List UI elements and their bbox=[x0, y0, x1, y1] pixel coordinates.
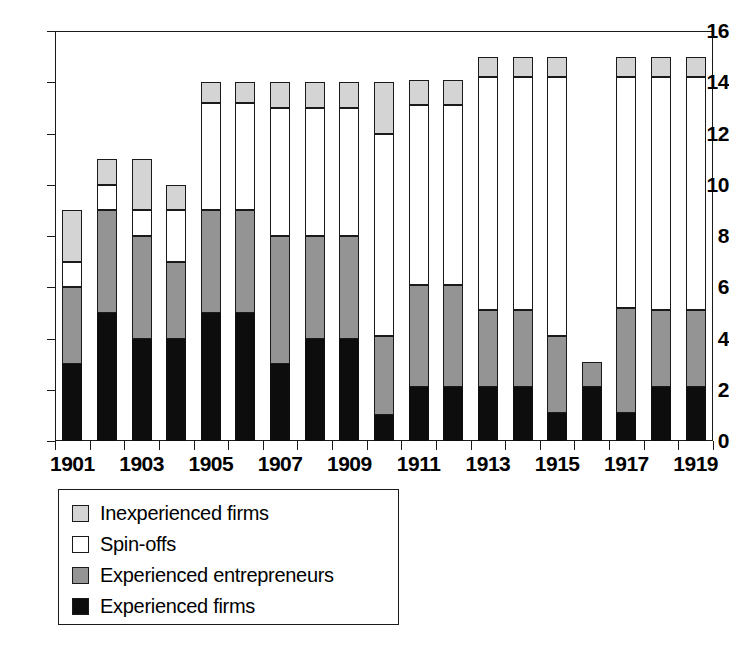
bar-segment-1901-experienced-firms[interactable] bbox=[62, 364, 82, 441]
bar-segment-1912-experienced-firms[interactable] bbox=[443, 387, 463, 441]
bar-1913[interactable] bbox=[478, 31, 498, 441]
bar-segment-1905-experienced-firms[interactable] bbox=[201, 313, 221, 441]
bar-segment-1907-experienced-firms[interactable] bbox=[270, 364, 290, 441]
bar-segment-1914-experienced-entrepreneurs[interactable] bbox=[513, 310, 533, 387]
legend-item-inexperienced-firms[interactable]: Inexperienced firms bbox=[72, 498, 398, 528]
bar-segment-1914-inexperienced-firms[interactable] bbox=[513, 57, 533, 78]
bar-segment-1909-inexperienced-firms[interactable] bbox=[339, 82, 359, 108]
bar-segment-1901-inexperienced-firms[interactable] bbox=[62, 210, 82, 261]
bar-segment-1904-inexperienced-firms[interactable] bbox=[166, 185, 186, 211]
bar-segment-1902-experienced-entrepreneurs[interactable] bbox=[97, 210, 117, 313]
bar-segment-1902-inexperienced-firms[interactable] bbox=[97, 159, 117, 185]
bar-segment-1915-experienced-entrepreneurs[interactable] bbox=[547, 336, 567, 413]
bar-1918[interactable] bbox=[651, 31, 671, 441]
bar-segment-1912-inexperienced-firms[interactable] bbox=[443, 80, 463, 106]
bar-segment-1907-spin-offs[interactable] bbox=[270, 108, 290, 236]
bar-1915[interactable] bbox=[547, 31, 567, 441]
bar-segment-1915-experienced-firms[interactable] bbox=[547, 413, 567, 441]
bar-segment-1910-spin-offs[interactable] bbox=[374, 134, 394, 336]
bar-segment-1918-inexperienced-firms[interactable] bbox=[651, 57, 671, 78]
bar-1919[interactable] bbox=[686, 31, 706, 441]
bar-1907[interactable] bbox=[270, 31, 290, 441]
bar-segment-1901-experienced-entrepreneurs[interactable] bbox=[62, 287, 82, 364]
bar-segment-1904-spin-offs[interactable] bbox=[166, 210, 186, 261]
bar-segment-1909-spin-offs[interactable] bbox=[339, 108, 359, 236]
bar-segment-1911-spin-offs[interactable] bbox=[409, 105, 429, 284]
bar-segment-1913-spin-offs[interactable] bbox=[478, 77, 498, 310]
bar-1912[interactable] bbox=[443, 31, 463, 441]
bar-1906[interactable] bbox=[235, 31, 255, 441]
bar-segment-1903-experienced-entrepreneurs[interactable] bbox=[132, 236, 152, 339]
bar-1909[interactable] bbox=[339, 31, 359, 441]
bar-segment-1910-inexperienced-firms[interactable] bbox=[374, 82, 394, 133]
bar-segment-1914-experienced-firms[interactable] bbox=[513, 387, 533, 441]
bar-segment-1908-experienced-firms[interactable] bbox=[305, 339, 325, 442]
bar-segment-1911-inexperienced-firms[interactable] bbox=[409, 80, 429, 106]
bar-segment-1909-experienced-entrepreneurs[interactable] bbox=[339, 236, 359, 339]
bar-1905[interactable] bbox=[201, 31, 221, 441]
bar-segment-1908-spin-offs[interactable] bbox=[305, 108, 325, 236]
bar-segment-1906-spin-offs[interactable] bbox=[235, 103, 255, 211]
bar-segment-1902-experienced-firms[interactable] bbox=[97, 313, 117, 441]
bar-segment-1904-experienced-firms[interactable] bbox=[166, 339, 186, 442]
bar-segment-1915-inexperienced-firms[interactable] bbox=[547, 57, 567, 78]
bar-1917[interactable] bbox=[616, 31, 636, 441]
bar-segment-1907-inexperienced-firms[interactable] bbox=[270, 82, 290, 108]
bar-segment-1911-experienced-entrepreneurs[interactable] bbox=[409, 285, 429, 388]
bar-segment-1918-experienced-firms[interactable] bbox=[651, 387, 671, 441]
bar-segment-1903-spin-offs[interactable] bbox=[132, 210, 152, 236]
bar-segment-1917-inexperienced-firms[interactable] bbox=[616, 57, 636, 78]
bar-segment-1916-experienced-entrepreneurs[interactable] bbox=[582, 362, 602, 388]
bar-segment-1913-inexperienced-firms[interactable] bbox=[478, 57, 498, 78]
bar-segment-1919-inexperienced-firms[interactable] bbox=[686, 57, 706, 78]
bar-segment-1912-spin-offs[interactable] bbox=[443, 105, 463, 284]
x-tick-mark-7 bbox=[297, 441, 298, 450]
bar-segment-1912-experienced-entrepreneurs[interactable] bbox=[443, 285, 463, 388]
bar-segment-1917-experienced-entrepreneurs[interactable] bbox=[616, 308, 636, 413]
bar-segment-1903-inexperienced-firms[interactable] bbox=[132, 159, 152, 210]
bar-segment-1913-experienced-entrepreneurs[interactable] bbox=[478, 310, 498, 387]
bar-segment-1914-spin-offs[interactable] bbox=[513, 77, 533, 310]
bar-segment-1905-inexperienced-firms[interactable] bbox=[201, 82, 221, 103]
bar-segment-1906-experienced-firms[interactable] bbox=[235, 313, 255, 441]
bar-segment-1913-experienced-firms[interactable] bbox=[478, 387, 498, 441]
legend-label: Experienced firms bbox=[100, 595, 255, 617]
bar-1901[interactable] bbox=[62, 31, 82, 441]
bar-segment-1918-experienced-entrepreneurs[interactable] bbox=[651, 310, 671, 387]
bar-segment-1917-spin-offs[interactable] bbox=[616, 77, 636, 308]
bar-segment-1908-inexperienced-firms[interactable] bbox=[305, 82, 325, 108]
bar-segment-1918-spin-offs[interactable] bbox=[651, 77, 671, 310]
bar-segment-1915-spin-offs[interactable] bbox=[547, 77, 567, 336]
legend-item-experienced-entrepreneurs[interactable]: Experienced entrepreneurs bbox=[72, 560, 398, 590]
bar-1902[interactable] bbox=[97, 31, 117, 441]
bar-segment-1910-experienced-firms[interactable] bbox=[374, 415, 394, 441]
legend-item-spin-offs[interactable]: Spin-offs bbox=[72, 529, 398, 559]
bar-segment-1917-experienced-firms[interactable] bbox=[616, 413, 636, 441]
bar-segment-1910-experienced-entrepreneurs[interactable] bbox=[374, 336, 394, 415]
bar-segment-1919-experienced-entrepreneurs[interactable] bbox=[686, 310, 706, 387]
bar-segment-1908-experienced-entrepreneurs[interactable] bbox=[305, 236, 325, 339]
legend-item-experienced-firms[interactable]: Experienced firms bbox=[72, 591, 398, 621]
bar-1914[interactable] bbox=[513, 31, 533, 441]
bar-segment-1903-experienced-firms[interactable] bbox=[132, 339, 152, 442]
bar-segment-1905-experienced-entrepreneurs[interactable] bbox=[201, 210, 221, 313]
bar-1916[interactable] bbox=[582, 31, 602, 441]
stacked-bar-chart: 0246810121416 19011903190519071909191119… bbox=[0, 0, 729, 656]
bar-segment-1919-spin-offs[interactable] bbox=[686, 77, 706, 310]
bar-segment-1909-experienced-firms[interactable] bbox=[339, 339, 359, 442]
bar-segment-1911-experienced-firms[interactable] bbox=[409, 387, 429, 441]
bar-1911[interactable] bbox=[409, 31, 429, 441]
bar-segment-1907-experienced-entrepreneurs[interactable] bbox=[270, 236, 290, 364]
bar-segment-1901-spin-offs[interactable] bbox=[62, 262, 82, 288]
bar-1908[interactable] bbox=[305, 31, 325, 441]
bar-1910[interactable] bbox=[374, 31, 394, 441]
bar-segment-1906-experienced-entrepreneurs[interactable] bbox=[235, 210, 255, 313]
bar-1904[interactable] bbox=[166, 31, 186, 441]
bar-segment-1906-inexperienced-firms[interactable] bbox=[235, 82, 255, 103]
bar-segment-1902-spin-offs[interactable] bbox=[97, 185, 117, 211]
bar-segment-1916-experienced-firms[interactable] bbox=[582, 387, 602, 441]
bar-segment-1919-experienced-firms[interactable] bbox=[686, 387, 706, 441]
bar-1903[interactable] bbox=[132, 31, 152, 441]
bar-segment-1904-experienced-entrepreneurs[interactable] bbox=[166, 262, 186, 339]
bar-segment-1905-spin-offs[interactable] bbox=[201, 103, 221, 211]
